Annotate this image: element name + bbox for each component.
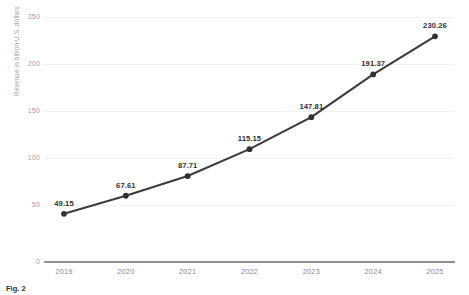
point-label-2024: 191.37 xyxy=(361,59,385,68)
point-label-2021: 87.71 xyxy=(178,161,198,170)
y-tick-50: 50 xyxy=(6,201,40,209)
figure-caption: Fig. 2 xyxy=(6,284,466,294)
point-label-2019: 49.15 xyxy=(54,199,74,208)
y-tick-150: 150 xyxy=(6,107,40,115)
point-label-2020: 67.61 xyxy=(116,181,136,190)
point-label-2022: 115.15 xyxy=(238,134,261,143)
x-tick-2025: 2025 xyxy=(426,267,443,276)
point-label-2023: 147.81 xyxy=(299,102,323,111)
data-point-2022[interactable] xyxy=(247,146,253,152)
data-point-2019[interactable] xyxy=(61,211,67,217)
data-point-2025[interactable] xyxy=(432,33,438,39)
x-axis-baseline xyxy=(44,261,455,263)
line-chart-figure: 250 200 150 100 50 0 Revenue in billion … xyxy=(0,0,469,295)
x-tick-2021: 2021 xyxy=(179,267,196,276)
y-tick-100: 100 xyxy=(6,154,40,162)
y-tick-0: 0 xyxy=(6,258,40,266)
x-axis-tick-labels: 2019202020212022202320242025 xyxy=(44,267,455,281)
y-axis-title: Revenue in billion U.S. dollars xyxy=(13,0,21,96)
data-point-2024[interactable] xyxy=(370,72,376,78)
point-label-2025: 230.26 xyxy=(423,21,447,30)
caption-lead: Fig. 2 xyxy=(6,284,26,293)
data-point-2020[interactable] xyxy=(123,193,129,199)
x-tick-2022: 2022 xyxy=(241,267,258,276)
x-tick-2023: 2023 xyxy=(303,267,320,276)
y-tick-200: 200 xyxy=(6,60,40,68)
x-tick-2019: 2019 xyxy=(55,267,72,276)
x-tick-2024: 2024 xyxy=(365,267,382,276)
y-tick-250: 250 xyxy=(6,13,40,21)
x-tick-2020: 2020 xyxy=(117,267,134,276)
plot-area: 49.1567.6187.71115.15147.81191.37230.26 xyxy=(44,17,455,262)
data-point-2023[interactable] xyxy=(308,114,314,120)
data-point-2021[interactable] xyxy=(185,173,191,179)
